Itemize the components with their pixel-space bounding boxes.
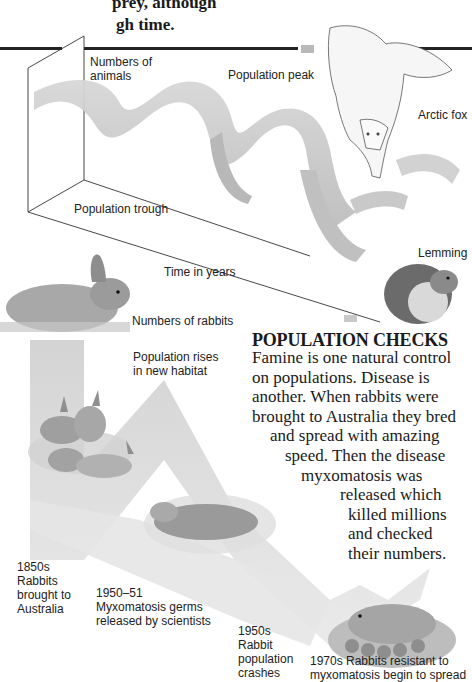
y-axis-label-rabbits: Numbers of rabbits: [132, 314, 233, 328]
event-1850s-line-2: Rabbits: [17, 574, 71, 588]
event-1850s: 1850s Rabbits brought to Australia: [17, 560, 71, 616]
checks-line: brought to Australia they bred: [252, 407, 456, 427]
event-1950-51: 1950–51 Myxomatosis germs released by sc…: [96, 586, 211, 628]
checks-line: and spread with amazing: [270, 426, 439, 446]
event-1970s: 1970s Rabbits resistant to myxomatosis b…: [310, 654, 466, 682]
population-trough-label: Population trough: [74, 202, 168, 216]
event-1950-51-year: 1950–51: [96, 586, 211, 600]
event-1950-51-line-2: Myxomatosis germs: [96, 600, 211, 614]
checks-line: on populations. Disease is: [252, 368, 430, 388]
event-1850s-line-4: Australia: [17, 602, 71, 616]
rabbit-illustration-top: [0, 254, 130, 332]
event-1970s-line-2: myxomatosis begin to spread: [310, 668, 466, 682]
event-1970s-line-1: 1970s Rabbits resistant to: [310, 654, 466, 668]
x-axis-label-time: Time in years: [164, 265, 236, 279]
population-peak-label: Population peak: [228, 68, 314, 82]
event-1950s: 1950s Rabbit population crashes: [238, 624, 293, 680]
event-1950s-line-2: Rabbit: [238, 638, 293, 652]
lemming-label: Lemming: [418, 246, 467, 260]
population-checks-body: Famine is one natural control on populat…: [0, 348, 472, 528]
arctic-fox-label: Arctic fox: [418, 108, 467, 122]
checks-line: their numbers.: [348, 544, 446, 564]
event-1950-51-line-3: released by scientists: [96, 614, 211, 628]
event-1950s-line-3: population: [238, 652, 293, 666]
lemming-marker: [344, 315, 357, 322]
y-axis-label-line-2: animals: [90, 69, 152, 83]
checks-line: and checked: [348, 524, 432, 544]
lemming-icon: [384, 264, 458, 324]
y-axis-label-line-1: Numbers of: [90, 55, 152, 69]
event-1850s-line-3: brought to: [17, 588, 71, 602]
event-1850s-year: 1850s: [17, 560, 71, 574]
checks-line: speed. Then the disease: [285, 446, 445, 466]
checks-line: released which: [340, 485, 441, 505]
event-1950s-line-4: crashes: [238, 666, 293, 680]
checks-line: another. When rabbits were: [252, 387, 439, 407]
checks-line: Famine is one natural control: [252, 348, 451, 368]
checks-line: myxomatosis was: [301, 466, 422, 486]
checks-line: killed millions: [348, 505, 447, 525]
event-1950s-year: 1950s: [238, 624, 293, 638]
y-axis-label-animals: Numbers of animals: [90, 55, 152, 83]
